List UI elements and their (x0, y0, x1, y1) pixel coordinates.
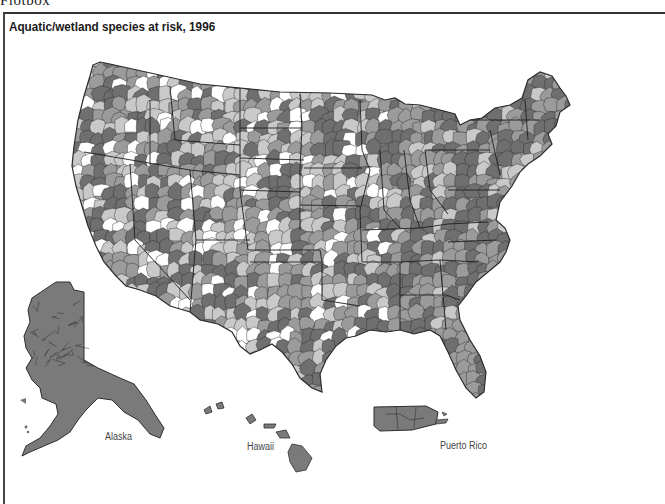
watershed-cell (94, 337, 108, 356)
watershed-cell (321, 53, 340, 71)
watershed-cell (278, 54, 292, 71)
watershed-cell (193, 341, 211, 356)
watershed-cell (412, 341, 433, 357)
watershed-cell (441, 54, 457, 67)
watershed-cell (510, 373, 526, 390)
watershed-cell (533, 239, 547, 258)
watershed-cell (554, 250, 570, 267)
watershed-cell (156, 395, 172, 412)
watershed-cell (541, 284, 556, 302)
watershed-cell (137, 362, 153, 378)
watershed-cell (510, 229, 527, 245)
watershed-cell (113, 342, 131, 356)
watershed-cell (411, 51, 433, 65)
watershed-cell (116, 360, 132, 375)
watershed-cell (301, 63, 317, 78)
watershed-cell (457, 84, 472, 100)
watershed-cell (237, 360, 255, 377)
watershed-cell (157, 305, 174, 323)
watershed-cell (565, 197, 582, 214)
watershed-cell (566, 343, 578, 359)
watershed-cell (544, 63, 560, 80)
watershed-cell (212, 329, 228, 346)
watershed-cell (499, 65, 518, 82)
watershed-cell (543, 253, 562, 270)
watershed-cell (160, 56, 175, 69)
watershed-cell (322, 383, 341, 401)
watershed-cell (543, 188, 560, 207)
watershed-cell (245, 384, 263, 401)
watershed-cell (202, 364, 216, 382)
watershed-cell (123, 360, 136, 374)
watershed-cell (83, 255, 101, 267)
watershed-cell (442, 85, 456, 99)
watershed-cell (245, 54, 258, 71)
watershed-cell (522, 194, 540, 214)
watershed-cell (576, 309, 590, 325)
watershed-cell (498, 88, 518, 102)
watershed-cell (291, 77, 305, 89)
watershed-cell (377, 54, 394, 70)
watershed-cell (554, 229, 570, 246)
watershed-cell (544, 295, 560, 314)
watershed-cell (310, 391, 323, 405)
watershed-cell (532, 319, 550, 335)
watershed-cell (519, 186, 534, 203)
watershed-cell (512, 54, 531, 72)
watershed-cell (367, 371, 387, 384)
watershed-cell (432, 54, 452, 69)
watershed-cell (355, 385, 371, 403)
watershed-cell (544, 166, 558, 180)
watershed-cell (452, 64, 468, 81)
watershed-cell (544, 364, 559, 381)
watershed-cell (519, 315, 535, 333)
watershed-cell (235, 55, 253, 70)
watershed-cell (500, 384, 516, 401)
watershed-cell (146, 363, 163, 377)
watershed-cell (500, 208, 521, 225)
watershed-cell (59, 107, 79, 124)
watershed-cell (522, 375, 539, 391)
watershed-cell (577, 97, 593, 116)
watershed-cell (300, 54, 316, 69)
watershed-cell (479, 307, 494, 322)
watershed-cell (497, 292, 516, 308)
watershed-cell (509, 316, 526, 332)
watershed-cell (534, 364, 551, 377)
watershed-cell (156, 353, 176, 368)
watershed-cell (124, 340, 138, 352)
watershed-cell (165, 383, 183, 398)
watershed-cell (476, 97, 488, 114)
watershed-cell (343, 77, 358, 93)
watershed-cell (500, 286, 514, 303)
watershed-cell (91, 282, 106, 298)
watershed-cell (509, 198, 525, 216)
watershed-cell (345, 382, 365, 397)
watershed-cell (574, 294, 592, 309)
watershed-cell (486, 373, 506, 390)
watershed-cell (100, 285, 120, 298)
watershed-cell (529, 260, 545, 279)
hawaii-island-oahu (246, 414, 256, 424)
watershed-cell (355, 348, 374, 361)
watershed-cell (356, 56, 372, 74)
watershed-cell (442, 397, 461, 415)
watershed-cell (564, 109, 580, 126)
watershed-cell (467, 62, 485, 80)
watershed-cell (334, 371, 352, 389)
watershed-cell (519, 227, 532, 246)
watershed-cell (91, 298, 108, 314)
watershed-cell (157, 359, 171, 379)
watershed-cell (464, 299, 480, 313)
watershed-cell (541, 218, 561, 235)
watershed-cell (520, 239, 537, 256)
watershed-cell (575, 396, 589, 414)
watershed-cell (58, 88, 75, 103)
watershed-cell (523, 330, 537, 344)
watershed-cell (530, 391, 548, 408)
watershed-cell (562, 293, 576, 311)
watershed-cell (276, 364, 291, 379)
watershed-cell (532, 353, 552, 367)
watershed-cell (554, 307, 567, 325)
watershed-cell (100, 274, 118, 291)
